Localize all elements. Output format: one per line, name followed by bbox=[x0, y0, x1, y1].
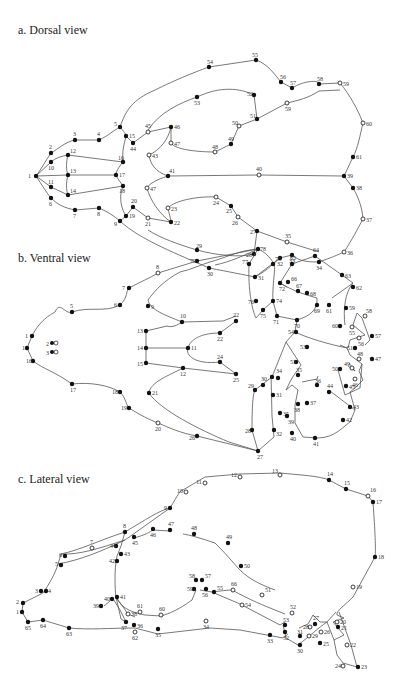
svg-text:10: 10 bbox=[48, 165, 54, 171]
svg-text:42: 42 bbox=[109, 558, 115, 564]
svg-text:61: 61 bbox=[356, 154, 362, 160]
svg-text:60: 60 bbox=[332, 323, 338, 329]
svg-text:17: 17 bbox=[376, 499, 382, 505]
svg-text:7: 7 bbox=[122, 285, 125, 291]
svg-text:21: 21 bbox=[145, 221, 151, 227]
svg-text:22: 22 bbox=[217, 336, 223, 342]
svg-text:45: 45 bbox=[145, 123, 151, 129]
svg-text:22: 22 bbox=[233, 312, 239, 318]
svg-text:51: 51 bbox=[265, 587, 271, 593]
svg-text:34: 34 bbox=[203, 624, 209, 630]
svg-text:15: 15 bbox=[137, 361, 143, 367]
svg-text:46: 46 bbox=[352, 382, 358, 388]
svg-text:27: 27 bbox=[257, 454, 263, 460]
svg-text:78: 78 bbox=[260, 246, 266, 252]
svg-text:7: 7 bbox=[90, 539, 93, 545]
svg-text:8: 8 bbox=[156, 264, 159, 270]
svg-text:48: 48 bbox=[357, 351, 363, 357]
svg-text:59: 59 bbox=[343, 81, 349, 87]
svg-text:57: 57 bbox=[290, 80, 296, 86]
svg-text:59: 59 bbox=[187, 586, 193, 592]
svg-text:13: 13 bbox=[70, 168, 76, 174]
svg-text:46: 46 bbox=[150, 532, 156, 538]
svg-text:54: 54 bbox=[245, 602, 251, 608]
svg-text:51: 51 bbox=[250, 113, 256, 119]
svg-text:31: 31 bbox=[276, 392, 282, 398]
svg-text:41: 41 bbox=[169, 168, 175, 174]
svg-text:47: 47 bbox=[174, 141, 180, 147]
svg-text:59: 59 bbox=[285, 106, 291, 112]
svg-text:48: 48 bbox=[191, 525, 197, 531]
svg-text:9: 9 bbox=[114, 221, 117, 227]
svg-text:9: 9 bbox=[151, 304, 154, 310]
svg-text:23: 23 bbox=[171, 206, 177, 212]
svg-text:33: 33 bbox=[267, 638, 273, 644]
svg-text:17: 17 bbox=[119, 172, 125, 178]
svg-text:35: 35 bbox=[285, 233, 291, 239]
svg-text:21: 21 bbox=[341, 625, 347, 631]
svg-text:58: 58 bbox=[189, 573, 195, 579]
svg-text:50: 50 bbox=[232, 120, 238, 126]
svg-text:14: 14 bbox=[137, 345, 143, 351]
svg-text:25: 25 bbox=[226, 208, 232, 214]
svg-text:55: 55 bbox=[349, 330, 355, 336]
svg-text:29: 29 bbox=[196, 243, 202, 249]
svg-text:36: 36 bbox=[315, 378, 321, 384]
svg-text:73: 73 bbox=[275, 256, 281, 262]
svg-text:64: 64 bbox=[313, 247, 319, 253]
svg-text:6: 6 bbox=[114, 302, 117, 308]
svg-text:56: 56 bbox=[202, 592, 208, 598]
svg-text:31: 31 bbox=[297, 629, 303, 635]
svg-text:46: 46 bbox=[174, 124, 180, 130]
svg-text:11: 11 bbox=[48, 179, 54, 185]
svg-text:22: 22 bbox=[350, 642, 356, 648]
svg-text:56: 56 bbox=[280, 74, 286, 80]
svg-text:29: 29 bbox=[312, 633, 318, 639]
svg-text:49: 49 bbox=[344, 361, 350, 367]
svg-text:65: 65 bbox=[25, 625, 31, 631]
svg-text:38: 38 bbox=[356, 185, 362, 191]
svg-text:12: 12 bbox=[231, 472, 237, 478]
svg-text:18: 18 bbox=[119, 188, 125, 194]
svg-text:11: 11 bbox=[196, 479, 202, 485]
svg-text:14: 14 bbox=[70, 188, 76, 194]
svg-text:75: 75 bbox=[260, 313, 266, 319]
svg-text:62: 62 bbox=[356, 285, 362, 291]
svg-text:60: 60 bbox=[366, 121, 372, 127]
svg-text:48: 48 bbox=[212, 144, 218, 150]
svg-text:44: 44 bbox=[130, 146, 136, 152]
svg-text:53: 53 bbox=[194, 100, 200, 106]
svg-text:32: 32 bbox=[283, 635, 289, 641]
ventral-view: 1 1 16 2 3 5 6 7 8 9 10 11 12 13 14 15 1… bbox=[22, 246, 381, 460]
svg-text:8: 8 bbox=[97, 211, 100, 217]
svg-text:50: 50 bbox=[332, 366, 338, 372]
svg-text:63: 63 bbox=[345, 273, 351, 279]
svg-text:30: 30 bbox=[297, 648, 303, 654]
svg-text:54: 54 bbox=[288, 329, 294, 335]
svg-text:52: 52 bbox=[247, 91, 253, 97]
svg-text:25: 25 bbox=[323, 641, 329, 647]
svg-text:53: 53 bbox=[283, 617, 289, 623]
svg-text:47: 47 bbox=[168, 521, 174, 527]
svg-text:61: 61 bbox=[137, 603, 143, 609]
svg-text:47: 47 bbox=[375, 356, 381, 362]
svg-text:1: 1 bbox=[16, 609, 19, 615]
svg-text:17: 17 bbox=[70, 387, 76, 393]
skull-landmark-diagram: 1 2 3 4 5 6 7 8 9 10 11 12 13 14 15 16 1… bbox=[0, 0, 402, 685]
svg-text:25: 25 bbox=[233, 377, 239, 383]
svg-text:45: 45 bbox=[132, 540, 138, 546]
svg-text:35: 35 bbox=[155, 632, 161, 638]
svg-text:39: 39 bbox=[93, 603, 99, 609]
svg-text:26: 26 bbox=[324, 629, 330, 635]
svg-text:2: 2 bbox=[16, 599, 19, 605]
svg-text:12: 12 bbox=[70, 148, 76, 154]
svg-text:13: 13 bbox=[272, 468, 278, 474]
svg-text:19: 19 bbox=[121, 405, 127, 411]
svg-text:53: 53 bbox=[290, 359, 296, 365]
svg-text:15: 15 bbox=[344, 480, 350, 486]
svg-text:30: 30 bbox=[207, 271, 213, 277]
svg-text:54: 54 bbox=[207, 59, 213, 65]
svg-text:37: 37 bbox=[121, 625, 127, 631]
svg-text:51: 51 bbox=[347, 345, 353, 351]
ventral-landmarks: 1 1 16 2 3 5 6 7 8 9 10 11 12 13 14 15 1… bbox=[22, 246, 381, 460]
